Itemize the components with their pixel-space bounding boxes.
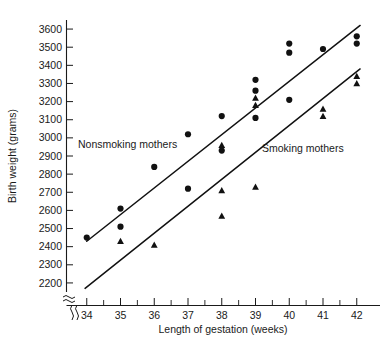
data-point-triangle [353, 80, 360, 86]
data-point-triangle [117, 238, 124, 244]
data-point-circle [286, 50, 292, 56]
x-tick-label: 37 [182, 309, 194, 321]
x-tick-label: 42 [351, 309, 363, 321]
smoking-series-label: Smoking mothers [262, 142, 344, 154]
y-tick-label: 3100 [39, 113, 63, 125]
x-tick-group: 343536373839404142 [81, 298, 363, 321]
data-point-triangle [320, 105, 327, 111]
data-point-circle [320, 46, 326, 52]
data-point-circle [286, 40, 292, 46]
data-point-circle [185, 186, 191, 192]
data-point-circle [185, 131, 191, 137]
axis-break-symbol [63, 296, 79, 321]
data-point-circle [252, 88, 258, 94]
data-point-triangle [320, 113, 327, 119]
x-tick-label: 38 [216, 309, 228, 321]
scatter-plot-figure: 2200230024002500260027002800290030003100… [0, 0, 386, 337]
y-tick-label: 2500 [39, 222, 63, 234]
data-point-triangle [252, 95, 259, 101]
data-point-circle [117, 224, 123, 230]
data-point-circle [84, 235, 90, 241]
x-axis-group: 343536373839404142 Length of gestation (… [67, 298, 381, 335]
chart-canvas: 2200230024002500260027002800290030003100… [0, 0, 386, 337]
data-point-triangle [252, 183, 259, 189]
y-tick-label: 2400 [39, 240, 63, 252]
y-tick-label: 3300 [39, 77, 63, 89]
x-tick-label: 34 [81, 309, 93, 321]
x-tick-label: 41 [317, 309, 329, 321]
data-point-circle [252, 115, 258, 121]
y-tick-label: 3400 [39, 59, 63, 71]
data-point-triangle [218, 212, 225, 218]
y-axis-group: 2200230024002500260027002800290030003100… [6, 20, 73, 292]
y-tick-label: 2900 [39, 150, 63, 162]
y-tick-label: 2800 [39, 168, 63, 180]
data-point-circle [354, 33, 360, 39]
data-point-circle [151, 164, 157, 170]
data-point-triangle [218, 142, 225, 148]
regression-lines-group [85, 25, 360, 288]
y-tick-label: 3500 [39, 41, 63, 53]
y-tick-label: 2200 [39, 277, 63, 289]
data-point-triangle [218, 187, 225, 193]
y-tick-label: 3600 [39, 23, 63, 35]
data-point-circle [354, 40, 360, 46]
x-tick-label: 39 [250, 309, 262, 321]
data-point-circle [252, 77, 258, 83]
data-point-circle [219, 147, 225, 153]
y-tick-label: 3200 [39, 95, 63, 107]
data-point-circle [286, 97, 292, 103]
data-point-triangle [151, 241, 158, 247]
x-tick-label: 36 [148, 309, 160, 321]
y-tick-label: 3000 [39, 131, 63, 143]
x-axis-title: Length of gestation (weeks) [159, 323, 288, 335]
regression-line [87, 25, 360, 241]
y-tick-label: 2600 [39, 204, 63, 216]
regression-line [85, 69, 360, 288]
data-point-circle [219, 113, 225, 119]
data-point-circle [117, 205, 123, 211]
x-tick-label: 40 [283, 309, 295, 321]
y-tick-label: 2300 [39, 258, 63, 270]
nonsmoking-series-label: Nonsmoking mothers [78, 138, 177, 150]
x-tick-label: 35 [115, 309, 127, 321]
y-axis-title: Birth weight (grams) [6, 109, 18, 203]
y-tick-label: 2700 [39, 186, 63, 198]
y-tick-group: 2200230024002500260027002800290030003100… [39, 23, 73, 289]
data-point-triangle [252, 102, 259, 108]
